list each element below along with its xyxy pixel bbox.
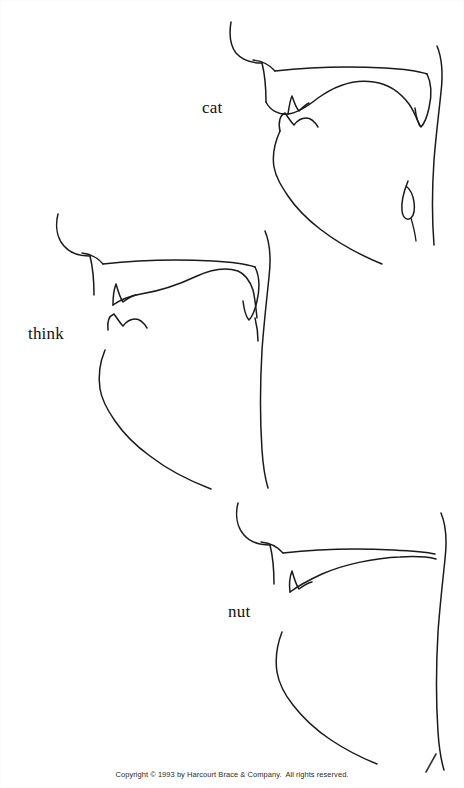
nut-upper-lip-line	[237, 503, 270, 545]
nut-tongue-tip	[290, 571, 312, 592]
nut-hard-palate	[283, 549, 435, 554]
nut-jaw-chin-outline	[276, 632, 377, 764]
copyright-notice: Copyright © 1993 by Harcourt Brace & Com…	[0, 770, 464, 779]
diagram-label-think: think	[28, 324, 64, 344]
nut-vocal-tract	[237, 503, 446, 770]
nut-tongue-body	[290, 557, 436, 592]
diagram-nut	[0, 0, 464, 788]
diagram-label-cat: cat	[202, 98, 222, 118]
nut-upper-incisor	[270, 545, 274, 584]
figure-page: cat think nut Copyright © 1993 by Harcou…	[0, 0, 464, 788]
nut-pharyngeal-wall	[437, 513, 446, 770]
diagram-label-nut: nut	[228, 602, 250, 622]
